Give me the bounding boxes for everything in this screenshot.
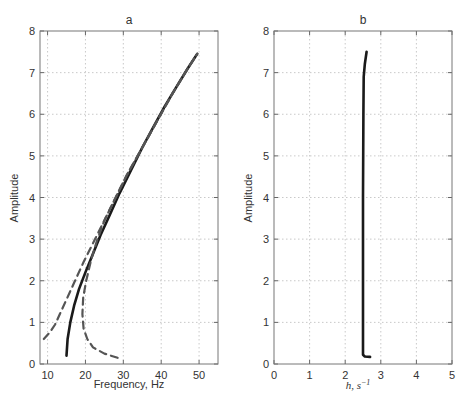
y-tick-label: 2	[29, 275, 35, 287]
x-tick-label: 4	[413, 369, 419, 381]
panel-b-xlabel: h, s−1	[346, 378, 371, 391]
series-line	[82, 54, 197, 358]
y-tick-label: 8	[263, 25, 269, 37]
panel-a-title: a	[126, 13, 133, 27]
y-tick-label: 5	[29, 150, 35, 162]
y-tick-label: 6	[263, 108, 269, 120]
series-line	[67, 54, 198, 356]
y-tick-label: 8	[29, 25, 35, 37]
y-tick-label: 4	[29, 192, 35, 204]
y-tick-label: 4	[263, 192, 269, 204]
x-tick-label: 1	[307, 369, 313, 381]
y-tick-label: 7	[29, 67, 35, 79]
x-tick-label: 5	[449, 369, 455, 381]
y-tick-label: 3	[263, 233, 269, 245]
x-tick-label: 10	[41, 369, 53, 381]
y-tick-label: 5	[263, 150, 269, 162]
panel-b-xlabel-base: h, s	[346, 379, 361, 391]
y-tick-label: 1	[263, 316, 269, 328]
panel-b-title: b	[360, 13, 367, 27]
panel-b-xlabel-sup: −1	[361, 378, 370, 387]
y-tick-label: 7	[263, 67, 269, 79]
x-tick-label: 20	[79, 369, 91, 381]
panel-a-chart: 1020304050012345678	[29, 25, 218, 381]
y-tick-label: 2	[263, 275, 269, 287]
x-tick-label: 3	[378, 369, 384, 381]
y-tick-label: 6	[29, 108, 35, 120]
panel-b-ylabel: Amplitude	[242, 174, 254, 223]
panel-a-ylabel: Amplitude	[8, 174, 20, 223]
y-tick-label: 0	[263, 358, 269, 370]
y-tick-label: 3	[29, 233, 35, 245]
panel-b-chart: 012345012345678	[263, 25, 455, 381]
figure: 1020304050012345678 012345012345678 a b …	[0, 0, 471, 406]
y-tick-label: 0	[29, 358, 35, 370]
x-tick-label: 0	[271, 369, 277, 381]
panel-a-xlabel: Frequency, Hz	[94, 378, 165, 390]
series-line	[44, 54, 197, 339]
series-line	[363, 52, 370, 357]
y-tick-label: 1	[29, 316, 35, 328]
x-tick-label: 50	[193, 369, 205, 381]
